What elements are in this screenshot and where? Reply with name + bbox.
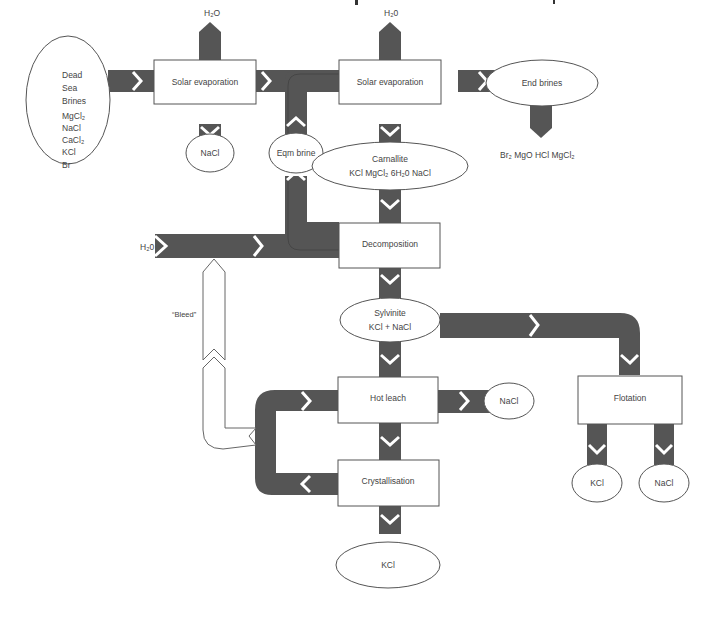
node-flotation[interactable]: Flotation [578, 376, 682, 424]
cropped-title [355, 0, 555, 5]
box-label: Solar evaporation [357, 77, 424, 87]
source-line: Dead [62, 70, 83, 80]
node-dead-sea-brines[interactable]: Dead Sea Brines MgCl₂ NaCl CaCl₂ KCl Br [26, 36, 110, 170]
box-label: Decomposition [362, 239, 418, 249]
source-line: MgCl₂ [62, 111, 85, 121]
box-label: Hot leach [370, 393, 406, 403]
process-flow-diagram: “Bleed” Dead Sea Brines MgCl₂ NaCl CaCl₂… [0, 0, 714, 621]
bleed-label: “Bleed” [172, 310, 197, 319]
node-nacl-1[interactable]: NaCl [186, 134, 234, 172]
node-decomposition[interactable]: Decomposition [339, 223, 440, 268]
h2o-label-2: H₂0 [384, 8, 398, 18]
node-nacl-flotation[interactable]: NaCl [639, 464, 689, 502]
h2o-label-1: H₂O [204, 8, 220, 18]
oval-title: Sylvinite [374, 308, 406, 318]
source-line: NaCl [62, 123, 81, 133]
source-line: CaCl₂ [62, 135, 84, 145]
oval-label: NaCl [500, 396, 519, 406]
oval-formula: KCl + NaCl [369, 322, 411, 332]
source-line: Br [62, 160, 71, 170]
node-carnallite[interactable]: Carnallite KCl MgCl₂ 6H₂0 NaCl [312, 142, 468, 190]
node-kcl-main[interactable]: KCl [336, 542, 440, 588]
box-label: Crystallisation [362, 476, 415, 486]
oval-formula: KCl MgCl₂ 6H₂0 NaCl [349, 168, 431, 178]
oval-label: NaCl [201, 148, 220, 158]
node-crystallisation[interactable]: Crystallisation [338, 460, 439, 506]
end-brines-products: Br₂ MgO HCl MgCl₂ [500, 150, 575, 160]
source-line: Brines [62, 96, 86, 106]
node-solar-evaporation-2[interactable]: Solar evaporation [339, 60, 441, 104]
node-kcl-flotation[interactable]: KCl [572, 464, 622, 502]
box-label: Flotation [614, 393, 647, 403]
oval-label: Eqm brine [277, 148, 316, 158]
source-line: KCl [62, 147, 76, 157]
oval-label: End brines [522, 78, 563, 88]
bleed-flow [203, 259, 256, 449]
box-label: Solar evaporation [172, 77, 239, 87]
node-end-brines[interactable]: End brines [486, 60, 598, 106]
node-sylvinite[interactable]: Sylvinite KCl + NaCl [340, 298, 440, 342]
oval-title: Carnallite [372, 154, 408, 164]
node-nacl-2[interactable]: NaCl [484, 383, 534, 419]
node-solar-evaporation-1[interactable]: Solar evaporation [154, 60, 256, 104]
oval-label: KCl [590, 478, 604, 488]
oval-label: KCl [381, 560, 395, 570]
h2o-label-left: H₂0 [140, 242, 154, 252]
source-line: Sea [62, 83, 77, 93]
node-hot-leach[interactable]: Hot leach [338, 377, 438, 423]
oval-label: NaCl [655, 478, 674, 488]
